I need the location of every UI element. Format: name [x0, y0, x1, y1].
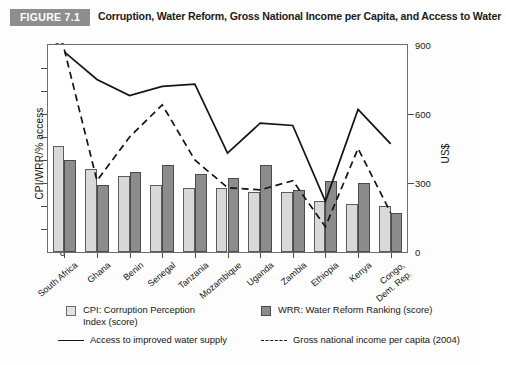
legend: CPI: Corruption Perception Index (score)…: [66, 304, 466, 360]
x-tick-mark: [391, 253, 392, 258]
y2-tick-label-600: 600: [415, 109, 445, 120]
x-tick-mark: [293, 253, 294, 258]
line-group: [48, 45, 407, 252]
x-tick-mark: [64, 253, 65, 258]
legend-swatch-access: [58, 340, 84, 341]
figure-number-badge: FIGURE 7.1: [10, 9, 90, 26]
x-tick-mark: [97, 253, 98, 258]
gni-line: [64, 50, 390, 227]
y2-tick-label-0: 0: [415, 247, 445, 258]
access-line: [64, 52, 390, 202]
y2-tick-mark: [408, 114, 414, 115]
x-tick-mark: [358, 253, 359, 258]
plot-area: [47, 44, 408, 253]
x-tick-mark: [130, 253, 131, 258]
x-tick-mark: [162, 253, 163, 258]
x-tick-mark: [195, 253, 196, 258]
figure-header: FIGURE 7.1 Corruption, Water Reform, Gro…: [10, 9, 470, 29]
y2-tick-mark: [408, 183, 414, 184]
x-tick-mark: [260, 253, 261, 258]
legend-label-access: Access to improved water supply: [90, 334, 280, 346]
legend-label-cpi: CPI: Corruption Perception Index (score): [83, 304, 273, 328]
legend-swatch-gni: [261, 340, 287, 341]
x-tick-mark: [228, 253, 229, 258]
legend-label-wrr: WRR: Water Reform Ranking (score): [278, 304, 488, 316]
legend-label-gni: Gross national income per capita (2004): [293, 334, 506, 346]
legend-swatch-wrr: [261, 306, 271, 316]
y2-tick-label-300: 300: [415, 178, 445, 189]
x-tick-mark: [325, 253, 326, 258]
y2-tick-label-900: 900: [415, 40, 445, 51]
figure-title: Corruption, Water Reform, Gross National…: [98, 10, 501, 22]
legend-swatch-cpi: [66, 306, 76, 316]
legend-label-cpi-line1: CPI: Corruption Perception: [83, 304, 195, 315]
legend-label-cpi-line2: Index (score): [83, 316, 138, 327]
